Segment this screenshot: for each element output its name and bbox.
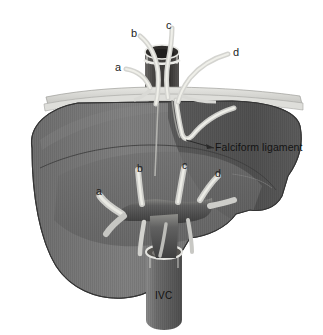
label-upper-vein-d: d xyxy=(233,47,239,58)
label-upper-vein-c: c xyxy=(166,20,172,31)
label-lower-vein-b: b xyxy=(137,163,143,174)
liver-anatomy-illustration xyxy=(0,0,323,335)
label-lower-vein-a: a xyxy=(96,186,102,197)
label-upper-vein-b: b xyxy=(131,28,137,39)
label-ivc: IVC xyxy=(155,291,173,301)
figure-canvas: a b c d a b c d Falciform ligament IVC xyxy=(0,0,323,335)
label-upper-vein-a: a xyxy=(115,62,121,73)
label-falciform-ligament: Falciform ligament xyxy=(215,142,303,153)
label-lower-vein-c: c xyxy=(182,160,187,171)
label-lower-vein-d: d xyxy=(215,168,221,179)
